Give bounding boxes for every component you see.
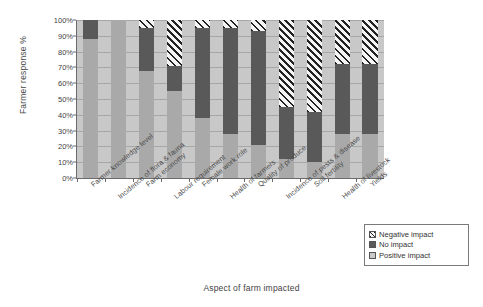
x-axis-title: Aspect of farm impacted: [0, 283, 483, 293]
bar-segment: [139, 28, 154, 71]
bar-segment: [307, 112, 322, 163]
y-axis-tick-label: 100%: [43, 16, 73, 25]
bar-segment: [335, 64, 350, 134]
stacked-bar[interactable]: [251, 20, 266, 178]
bar-slot: [356, 20, 384, 178]
bar-segment: [362, 20, 377, 64]
bar-segment: [223, 28, 238, 134]
negative-impact-swatch: [369, 231, 376, 238]
y-axis-tick-label: 70%: [43, 63, 73, 72]
bar-segment: [279, 20, 294, 107]
stacked-bar[interactable]: [195, 20, 210, 178]
bar-segment: [83, 20, 98, 39]
bar-slot: [133, 20, 161, 178]
stacked-bar[interactable]: [362, 20, 377, 178]
bar-segment: [251, 20, 266, 31]
bar-slot: [300, 20, 328, 178]
bar-slot: [189, 20, 217, 178]
y-axis-tick-label: 90%: [43, 31, 73, 40]
y-axis-tick-label: 50%: [43, 95, 73, 104]
bar-segment: [139, 20, 154, 28]
legend-item: Negative impact: [369, 230, 464, 239]
y-axis-tick-label: 20%: [43, 142, 73, 151]
x-axis-tick-mark: [77, 178, 78, 182]
chart-legend: Negative impact No impact Positive impac…: [364, 224, 469, 266]
legend-label: Negative impact: [379, 230, 433, 239]
bar-segment: [251, 31, 266, 145]
legend-label: Positive impact: [379, 251, 430, 260]
bar-segment: [83, 39, 98, 178]
legend-label: No impact: [379, 240, 413, 249]
legend-item: No impact: [369, 240, 464, 249]
bar-segment: [167, 66, 182, 91]
stacked-bar[interactable]: [307, 20, 322, 178]
legend-item: Positive impact: [369, 251, 464, 260]
y-axis-title: Farmer response %: [18, 15, 28, 135]
bar-segment: [307, 20, 322, 112]
bar-slot: [77, 20, 105, 178]
bar-segment: [195, 28, 210, 118]
bar-segment: [139, 71, 154, 178]
bar-segment: [195, 20, 210, 28]
y-axis-tick-label: 0%: [43, 174, 73, 183]
y-axis-tick-labels: 0%10%20%30%40%50%60%70%80%90%100%: [40, 20, 73, 178]
stacked-bar[interactable]: [139, 20, 154, 178]
stacked-bar[interactable]: [83, 20, 98, 178]
positive-impact-swatch: [369, 252, 376, 259]
bar-segment: [167, 20, 182, 66]
y-axis-tick-label: 80%: [43, 47, 73, 56]
bar-slot: [244, 20, 272, 178]
bar-segment: [335, 20, 350, 64]
y-axis-tick-label: 10%: [43, 158, 73, 167]
bar-segment: [362, 64, 377, 134]
y-axis-tick-label: 40%: [43, 110, 73, 119]
y-axis-tick-label: 60%: [43, 79, 73, 88]
bar-segment: [223, 20, 238, 28]
y-axis-tick-label: 30%: [43, 126, 73, 135]
chart-figure: Farmer response % 0%10%20%30%40%50%60%70…: [0, 0, 483, 307]
no-impact-swatch: [369, 241, 376, 248]
x-axis-title-text: Aspect of farm impacted: [183, 283, 299, 293]
